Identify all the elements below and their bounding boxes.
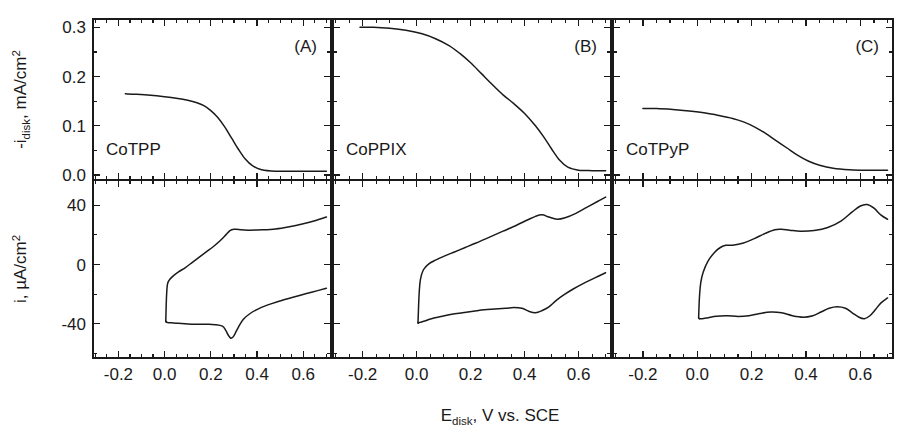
- y-tick-labels-bottom: -40040: [61, 196, 86, 334]
- y-axis-title-bottom-text: i, µA/cm2: [10, 235, 30, 303]
- x-tick-label: -0.2: [348, 365, 377, 384]
- cv-forward-scan: [699, 204, 888, 318]
- cv-switch-segment: [699, 318, 700, 319]
- y-axis-title-bottom: i, µA/cm2: [10, 235, 30, 303]
- sample-label-cotpyp: CoTPyP: [626, 140, 689, 159]
- panel-b-rde: (B)CoPPIX: [333, 19, 611, 180]
- panel-tag-c: (C): [855, 37, 879, 56]
- cv-reverse-scan: [166, 288, 326, 338]
- x-tick-label: -0.2: [628, 365, 657, 384]
- y-tick-label-bottom: -40: [61, 315, 86, 334]
- y-tick-label-top: 0.3: [62, 18, 86, 37]
- panel-c-rde: (C)CoTPyP: [613, 19, 893, 180]
- sample-label-cotpp: CoTPP: [106, 140, 161, 159]
- x-tick-label: 0.2: [199, 365, 223, 384]
- cv-forward-scan: [418, 197, 606, 322]
- panel-frame: [613, 180, 893, 358]
- panel-b-cv: [333, 180, 611, 358]
- cv-forward-scan: [166, 217, 327, 321]
- figure-root: (A)CoTPP-0.20.00.20.40.6(B)CoPPIX-0.20.0…: [0, 0, 909, 445]
- y-tick-label-top: 0.0: [62, 166, 86, 185]
- x-tick-label: 0.2: [740, 365, 764, 384]
- x-tick-label: 0.2: [459, 365, 483, 384]
- y-tick-label-top: 0.2: [62, 68, 86, 87]
- panel-frame: [333, 180, 611, 358]
- x-axis-title-text: Edisk, V vs. SCE: [441, 406, 560, 427]
- x-axis-title: Edisk, V vs. SCE: [441, 406, 560, 427]
- x-tick-label: 0.6: [567, 365, 591, 384]
- y-tick-label-bottom: 0: [77, 256, 86, 275]
- sample-label-coppix: CoPPIX: [346, 140, 406, 159]
- y-tick-label-top: 0.1: [62, 117, 86, 136]
- panel-c-cv: [613, 180, 893, 358]
- x-tick-label: 0.6: [291, 365, 315, 384]
- x-tick-labels-panel-b: -0.20.00.20.40.6: [348, 365, 590, 384]
- panel-a-rde: (A)CoTPP: [93, 19, 331, 180]
- x-tick-labels-panel-a: -0.20.00.20.40.6: [104, 365, 315, 384]
- x-tick-label: -0.2: [104, 365, 133, 384]
- x-tick-label: 0.0: [685, 365, 709, 384]
- panel-frame: [93, 180, 331, 358]
- x-tick-label: 0.4: [513, 365, 537, 384]
- cv-reverse-scan: [699, 298, 887, 319]
- x-tick-label: 0.4: [245, 365, 269, 384]
- multi-panel-electrochemistry-figure: (A)CoTPP-0.20.00.20.40.6(B)CoPPIX-0.20.0…: [0, 0, 909, 445]
- y-axis-title-top-text: -idisk, mA/cm2: [10, 50, 32, 149]
- panel-a-cv: [93, 180, 331, 358]
- y-tick-labels-top: 0.00.10.20.3: [62, 18, 86, 185]
- rde-curve: [125, 94, 326, 171]
- x-tick-labels-panel-c: -0.20.00.20.40.6: [628, 365, 872, 384]
- cv-reverse-scan: [418, 273, 605, 323]
- y-tick-label-bottom: 40: [67, 196, 86, 215]
- x-tick-label: 0.0: [153, 365, 177, 384]
- x-tick-label: 0.6: [849, 365, 873, 384]
- x-tick-label: 0.4: [794, 365, 818, 384]
- panel-tag-a: (A): [294, 37, 317, 56]
- x-tick-label: 0.0: [405, 365, 429, 384]
- panel-tag-b: (B): [574, 37, 597, 56]
- y-axis-title-top: -idisk, mA/cm2: [10, 50, 32, 149]
